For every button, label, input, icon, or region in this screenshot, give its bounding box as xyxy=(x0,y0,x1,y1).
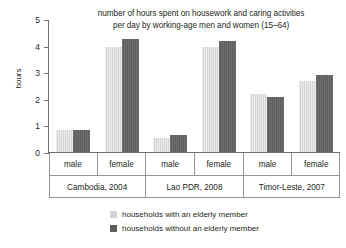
bar-without-elderly xyxy=(316,75,333,153)
bar-pair xyxy=(98,20,147,153)
bar-with-elderly xyxy=(105,47,122,153)
legend-swatch-dark xyxy=(110,225,117,232)
country-label: Timor-Leste, 2007 xyxy=(244,175,340,198)
chart-legend: households with an elderly memberhouseho… xyxy=(110,208,340,236)
bar-pair xyxy=(243,20,292,153)
bar-with-elderly xyxy=(153,138,170,153)
category-label-grid: malefemalemalefemalemalefemale Cambodia,… xyxy=(49,153,340,198)
bar-without-elderly xyxy=(122,39,139,153)
country-label: Cambodia, 2004 xyxy=(49,175,146,198)
bar-group xyxy=(243,20,292,153)
sex-label-row: malefemalemalefemalemalefemale xyxy=(49,153,340,175)
bar-group xyxy=(49,20,98,153)
sex-label-male: male xyxy=(146,153,195,175)
bar-group xyxy=(195,20,244,153)
bar-group xyxy=(98,20,147,153)
sex-label-male: male xyxy=(244,153,293,175)
plot-area xyxy=(49,20,340,153)
bar-without-elderly xyxy=(267,97,284,153)
bar-pair xyxy=(49,20,98,153)
legend-item: households without an elderly member xyxy=(110,222,340,234)
bar-with-elderly xyxy=(56,130,73,153)
bar-group xyxy=(146,20,195,153)
y-tick-label: 0 xyxy=(20,148,40,158)
y-tick-label: 1 xyxy=(20,121,40,131)
bar-group xyxy=(292,20,341,153)
bar-pair xyxy=(292,20,341,153)
sex-label-male: male xyxy=(49,153,98,175)
y-tick-label: 4 xyxy=(20,42,40,52)
bar-with-elderly xyxy=(299,81,316,153)
bar-pair xyxy=(146,20,195,153)
legend-label: households without an elderly member xyxy=(122,224,259,233)
bar-without-elderly xyxy=(73,130,90,153)
chart-title-line-1: number of hours spent on housework and c… xyxy=(62,8,340,20)
legend-label: households with an elderly member xyxy=(122,210,248,219)
legend-item: households with an elderly member xyxy=(110,208,340,220)
bar-pair xyxy=(195,20,244,153)
bar-with-elderly xyxy=(250,94,267,153)
y-tick-label: 3 xyxy=(20,68,40,78)
sex-label-female: female xyxy=(292,153,340,175)
bar-with-elderly xyxy=(202,47,219,153)
country-label: Lao PDR, 2008 xyxy=(146,175,243,198)
sex-label-female: female xyxy=(98,153,147,175)
legend-swatch-light xyxy=(110,211,117,218)
bar-chart: number of hours spent on housework and c… xyxy=(0,0,346,248)
y-tick-label: 5 xyxy=(20,15,40,25)
sex-label-female: female xyxy=(195,153,244,175)
bar-without-elderly xyxy=(219,41,236,153)
bar-without-elderly xyxy=(170,135,187,153)
y-tick-label: 2 xyxy=(20,95,40,105)
country-label-row: Cambodia, 2004Lao PDR, 2008Timor-Leste, … xyxy=(49,175,340,198)
